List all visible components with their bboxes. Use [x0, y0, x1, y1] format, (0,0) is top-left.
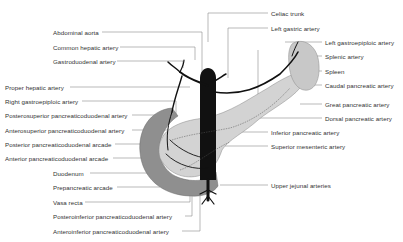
- anatomy-label: Splenic artery: [325, 53, 364, 60]
- aorta-shape: [200, 68, 216, 180]
- pancreas-shape: [159, 72, 305, 177]
- anatomy-label: Common hepatic artery: [53, 44, 118, 51]
- anatomy-label: Vasa recta: [53, 199, 83, 206]
- anatomy-label: Inferior pancreatic artery: [271, 129, 339, 136]
- anatomy-label: Spleen: [325, 68, 345, 75]
- anatomy-label: Anteroinferior pancreaticoduodenal arter…: [53, 228, 169, 235]
- anatomy-label: Superior mesenteric artery: [271, 143, 345, 150]
- anatomy-label: Anterosuperior pancreaticoduodenal arter…: [5, 127, 124, 134]
- anatomy-label: Posteroinferior pancreaticoduodenal arte…: [53, 213, 172, 220]
- anatomy-label: Duodenum: [53, 170, 84, 177]
- anatomy-label: Gastroduodenal artery: [53, 58, 116, 65]
- anatomy-label: Abdominal aorta: [53, 29, 99, 36]
- anatomy-label: Celiac trunk: [271, 10, 304, 17]
- anatomy-label: Left gastroepiploic artery: [325, 39, 394, 46]
- anatomy-label: Anterior pancreaticoduodenal arcade: [5, 155, 108, 162]
- anatomy-label: Dorsal pancreatic artery: [325, 115, 392, 122]
- anatomy-label: Posterosuperior pancreaticoduodenal arte…: [5, 112, 127, 119]
- anatomy-label: Left gastric artery: [271, 25, 320, 32]
- anatomy-label: Prepancreatic arcade: [53, 184, 113, 191]
- anatomy-label: Posterior pancreaticoduodenal arcade: [5, 141, 111, 148]
- anatomy-label: Great pancreatic artery: [325, 101, 389, 108]
- anatomy-label: Upper jejunal arteries: [271, 182, 331, 189]
- anatomy-label: Proper hepatic artery: [5, 84, 64, 91]
- anatomy-label: Right gastroepiploic artery: [5, 98, 78, 105]
- anatomy-label: Caudal pancreatic artery: [325, 82, 394, 89]
